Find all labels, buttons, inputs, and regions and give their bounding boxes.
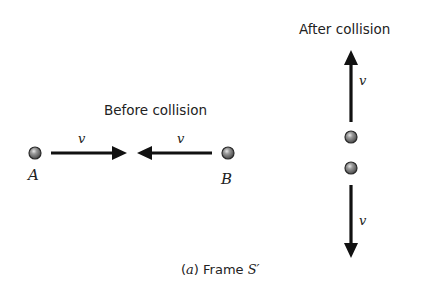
arrow-up-icon — [344, 50, 358, 122]
figure-caption: (a) Frame S′ — [181, 262, 260, 277]
caption-part-letter: a — [186, 262, 194, 277]
particle-b-velocity-label: v — [177, 131, 184, 146]
particle-a-velocity-label: v — [78, 131, 85, 146]
particle-b-label: B — [221, 170, 232, 188]
particle-a-label: A — [28, 166, 39, 184]
upper-particle-velocity-label: v — [359, 73, 366, 88]
arrow-left-icon — [137, 146, 212, 160]
particle-a-ball — [29, 147, 41, 159]
arrow-right-icon — [51, 146, 127, 160]
particle-b-ball — [222, 147, 234, 159]
caption-frame-symbol: S′ — [248, 262, 260, 277]
lower-particle-velocity-label: v — [359, 213, 366, 228]
caption-text: Frame — [199, 262, 248, 277]
lower-particle-ball — [345, 162, 357, 174]
arrow-down-icon — [344, 185, 358, 258]
after-collision-title: After collision — [299, 21, 390, 37]
before-collision-title: Before collision — [104, 102, 207, 118]
diagram-graphics — [0, 0, 422, 303]
diagram-frame-s-prime: Before collision v v A B After collision… — [0, 0, 422, 303]
upper-particle-ball — [345, 131, 357, 143]
